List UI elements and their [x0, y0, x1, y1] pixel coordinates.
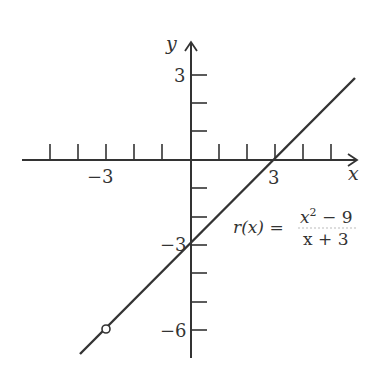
- graph-of-r: y x −3 3 3 −3 −6 r(x) = x2 − 9 x + 3: [0, 0, 388, 383]
- x-axis-label: x: [348, 162, 359, 184]
- open-circle-hole: [102, 325, 110, 333]
- formula-lhs: r(x) =: [233, 217, 284, 237]
- y-tick-label-3: 3: [174, 65, 185, 86]
- x-tick-label-3: 3: [268, 167, 279, 188]
- x-tick-label-neg3: −3: [87, 166, 114, 187]
- y-axis-label: y: [165, 32, 177, 54]
- y-ticks: [191, 75, 207, 330]
- y-tick-label-neg6: −6: [160, 320, 187, 341]
- formula: r(x) = x2 − 9 x + 3: [233, 206, 358, 249]
- y-tick-label-neg3: −3: [160, 234, 187, 255]
- formula-denominator: x + 3: [303, 229, 348, 249]
- svg-text:r(x) =: r(x) =: [233, 217, 284, 237]
- formula-numerator: x2 − 9: [300, 206, 352, 227]
